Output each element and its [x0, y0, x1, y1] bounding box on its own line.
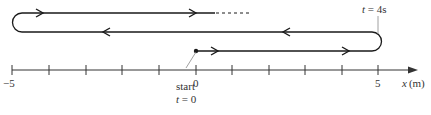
- motion-diagram: −5 0 5 x(m) start t = 0 t = 4s: [0, 0, 431, 115]
- axis-label: x(m): [401, 77, 425, 90]
- start-time-label: t = 0: [176, 93, 197, 105]
- start-leader-line: [186, 52, 196, 68]
- motion-path: [13, 13, 382, 51]
- x-axis: −5 0 5 x(m): [3, 65, 425, 90]
- path-line: [13, 13, 382, 51]
- turn-time-label: t = 4s: [362, 3, 387, 15]
- tick-label-5: 5: [375, 77, 381, 89]
- tick-label-minus-5: −5: [3, 77, 15, 89]
- start-label: start: [176, 80, 195, 92]
- axis-arrowhead-icon: [408, 67, 418, 74]
